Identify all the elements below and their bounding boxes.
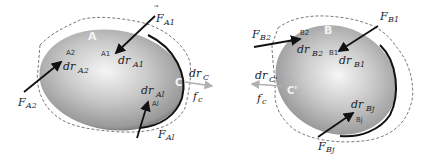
disp-al-symbol: dr [141,84,154,97]
force-b1-symbol: F [379,10,388,23]
point-a1-label: A1 [101,50,110,58]
body-b-label: B [324,24,332,37]
disp-b2-symbol: dr [297,43,310,56]
disp-bj-subscript: Bj [365,104,375,113]
contact-c-label: C [175,77,182,88]
disp-a1-symbol: dr [118,54,131,67]
disp-c-subscript: C [203,73,209,82]
force-a1-subscript: A1 [163,18,175,27]
disp-a1-subscript: A1 [132,60,144,69]
disp-c-prime-symbol: dr [255,69,268,82]
rigid-body-diagram: A F ⃗ A1 A1 dr A1 F A2 A2 dr A2 F Al Al … [0,0,434,163]
force-b1-subscript: B1 [387,15,399,24]
disp-bj-symbol: dr [351,98,364,111]
force-b2-subscript: B2 [259,33,271,42]
body-a-shape [33,20,191,139]
disp-b1-symbol: dr [339,54,352,67]
point-bj-label: Bj [356,116,363,124]
force-bj-subscript: Bj [325,145,335,154]
disp-b1-subscript: B1 [353,60,365,69]
contact-force-c-prime-subscript: c [262,97,267,106]
disp-al-subscript: Al [155,90,165,99]
disp-a2-symbol: dr [63,60,76,73]
force-a2-subscript: A2 [25,101,37,110]
force-b2-symbol: F [251,28,260,41]
point-b1-label: B1 [329,49,338,57]
point-b2-label: B2 [300,29,309,37]
point-a2-label: A2 [66,49,75,57]
force-bj-symbol: F [317,140,326,153]
force-a2-symbol: F [17,96,26,109]
disp-c-prime-subscript: C' [269,75,277,84]
contact-c-force-arrow [185,82,212,86]
body-b: B [257,6,414,154]
force-al-symbol: F [157,128,166,141]
body-a: A [33,17,191,139]
force-al-subscript: Al [165,133,175,142]
contact-force-c-subscript: c [198,95,203,104]
force-a1-symbol: F [155,12,164,25]
disp-c-symbol: dr [189,67,202,80]
body-a-label: A [88,30,97,43]
disp-a2-subscript: A2 [77,66,89,75]
vector-arrow-icon: ⃗ [154,5,159,7]
contact-c-prime-label: C' [287,85,297,96]
disp-b2-subscript: B2 [311,49,323,58]
point-al-label: Al [152,100,159,108]
